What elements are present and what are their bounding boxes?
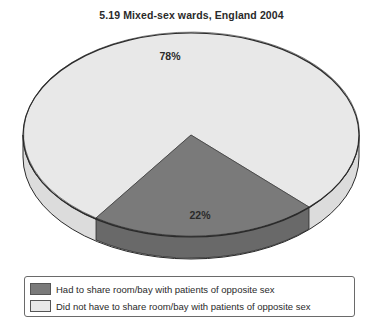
- slice-label-had-to-share: 22%: [189, 209, 211, 221]
- legend-item-had-to-share: Had to share room/bay with patients of o…: [30, 282, 275, 296]
- legend-swatch-dark: [30, 283, 51, 295]
- slice-label-did-not-share: 78%: [159, 50, 181, 62]
- pie-chart: 78% 22%: [0, 0, 383, 270]
- legend-item-did-not-share: Did not have to share room/bay with pati…: [30, 299, 311, 313]
- legend-label: Had to share room/bay with patients of o…: [56, 284, 275, 295]
- legend-label: Did not have to share room/bay with pati…: [56, 301, 311, 312]
- legend: Had to share room/bay with patients of o…: [24, 276, 355, 317]
- legend-swatch-light: [30, 300, 51, 312]
